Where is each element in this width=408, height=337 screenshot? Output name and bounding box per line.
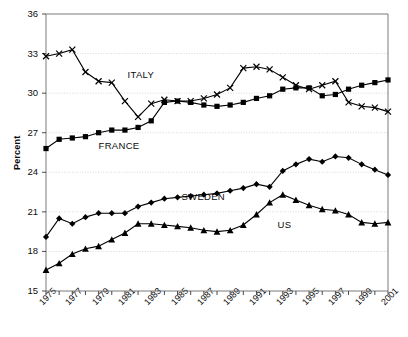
data-point xyxy=(56,260,63,266)
data-point xyxy=(227,85,233,91)
data-point xyxy=(280,74,286,80)
series-line xyxy=(46,156,388,236)
data-point xyxy=(319,159,325,165)
data-point xyxy=(109,210,115,216)
data-point xyxy=(254,96,259,101)
data-point xyxy=(293,85,298,90)
data-point xyxy=(346,87,351,92)
series-sweden xyxy=(43,153,391,240)
data-point xyxy=(320,93,325,98)
data-point xyxy=(188,193,194,199)
data-point xyxy=(161,196,167,202)
plot-area xyxy=(0,0,408,337)
series-us xyxy=(43,191,392,273)
data-point xyxy=(319,82,325,88)
data-point xyxy=(279,191,286,197)
data-point xyxy=(306,156,312,162)
data-point xyxy=(346,99,352,105)
data-point xyxy=(95,243,102,249)
data-point xyxy=(122,98,128,104)
data-point xyxy=(372,167,378,173)
data-point xyxy=(241,100,246,105)
data-point xyxy=(372,80,377,85)
data-point xyxy=(214,104,219,109)
data-point xyxy=(135,203,141,209)
data-point xyxy=(96,130,101,135)
data-point xyxy=(96,210,102,216)
data-point xyxy=(162,100,167,105)
data-point xyxy=(174,194,180,200)
series-line xyxy=(46,80,388,149)
data-point xyxy=(201,192,207,198)
data-point xyxy=(122,230,129,236)
data-point xyxy=(359,161,365,167)
data-point xyxy=(135,114,141,120)
data-point xyxy=(82,69,88,75)
data-point xyxy=(188,100,193,105)
data-point xyxy=(227,188,233,194)
data-point xyxy=(149,118,154,123)
data-point xyxy=(122,127,127,132)
data-point xyxy=(135,125,140,130)
line-chart: Percent 1518212427303336 197519771979198… xyxy=(0,0,408,337)
data-point xyxy=(82,214,88,220)
data-point xyxy=(70,135,75,140)
data-point xyxy=(108,236,115,242)
data-point xyxy=(83,134,88,139)
data-point xyxy=(43,146,48,151)
data-point xyxy=(267,93,272,98)
series-france xyxy=(43,77,390,151)
data-point xyxy=(148,101,154,107)
data-point xyxy=(280,87,285,92)
data-point xyxy=(306,85,311,90)
data-point xyxy=(214,91,220,97)
data-point xyxy=(69,221,75,227)
data-point xyxy=(293,161,299,167)
data-point xyxy=(333,92,338,97)
data-point xyxy=(109,127,114,132)
data-point xyxy=(43,266,50,272)
data-point xyxy=(266,199,273,205)
data-point xyxy=(214,190,220,196)
data-point xyxy=(306,202,313,208)
data-point xyxy=(385,172,391,178)
data-point xyxy=(253,181,259,187)
data-point xyxy=(359,83,364,88)
data-point xyxy=(345,155,351,161)
data-point xyxy=(385,77,390,82)
data-point xyxy=(69,47,75,53)
data-point xyxy=(240,185,246,191)
data-point xyxy=(332,153,338,159)
data-point xyxy=(148,200,154,206)
data-point xyxy=(175,98,180,103)
data-point xyxy=(228,102,233,107)
data-point xyxy=(332,78,338,84)
data-point xyxy=(201,102,206,107)
data-point xyxy=(293,197,300,203)
data-point xyxy=(57,137,62,142)
data-point xyxy=(122,210,128,216)
